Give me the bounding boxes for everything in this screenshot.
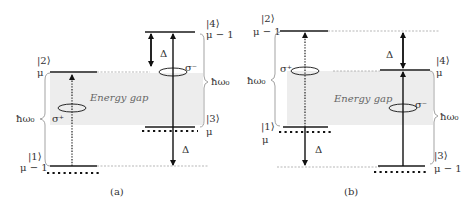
ket2-label: |2⟩ — [37, 55, 51, 67]
ket1-label: |1⟩ — [261, 121, 275, 133]
ket4-occupation: μ — [436, 67, 443, 78]
energy-level-figure: Energy gap |2⟩ μ |1⟩ μ − 1 ħω₀ σ⁺ |4⟩ μ … — [0, 0, 474, 207]
energy-gap-label: Energy gap — [333, 93, 393, 104]
ket3-occupation: μ — [206, 126, 213, 137]
ket1-occupation: μ — [262, 134, 269, 145]
delta-label: Δ — [386, 49, 393, 60]
panel-a: Energy gap |2⟩ μ |1⟩ μ − 1 ħω₀ σ⁺ |4⟩ μ … — [16, 18, 234, 197]
ket3-label: |3⟩ — [206, 113, 220, 125]
ket4-occupation: μ − 1 — [206, 29, 234, 40]
delta-label: Δ — [315, 144, 322, 155]
delta-label: Δ — [182, 144, 189, 155]
ket3-label: |3⟩ — [434, 150, 448, 162]
sigma-minus-label: σ⁻ — [185, 62, 197, 73]
delta-label: Δ — [160, 48, 167, 59]
hw0-label: ħω₀ — [211, 76, 230, 87]
sigma-plus-label: σ⁺ — [52, 113, 64, 124]
hw0-label: ħω₀ — [16, 113, 35, 124]
ket2-label: |2⟩ — [261, 13, 275, 25]
energy-gap-label: Energy gap — [89, 92, 149, 103]
sigma-minus-label: σ⁻ — [415, 99, 427, 110]
ket3-occupation: μ − 1 — [434, 163, 462, 174]
panel-a-caption: (a) — [110, 186, 124, 197]
sigma-plus-label: σ⁺ — [280, 63, 292, 74]
hw0-label: ħω₀ — [440, 111, 459, 122]
hw0-label: ħω₀ — [247, 75, 266, 86]
ket2-occupation: μ — [37, 67, 44, 78]
ket2-occupation: μ − 1 — [253, 26, 281, 37]
panel-b: Energy gap |2⟩ μ − 1 |1⟩ μ ħω₀ σ⁺ Δ |4⟩ … — [247, 13, 462, 197]
brace-left — [271, 32, 280, 126]
panel-b-caption: (b) — [344, 186, 358, 197]
ket1-occupation: μ − 1 — [20, 162, 48, 173]
ket4-label: |4⟩ — [436, 55, 450, 67]
